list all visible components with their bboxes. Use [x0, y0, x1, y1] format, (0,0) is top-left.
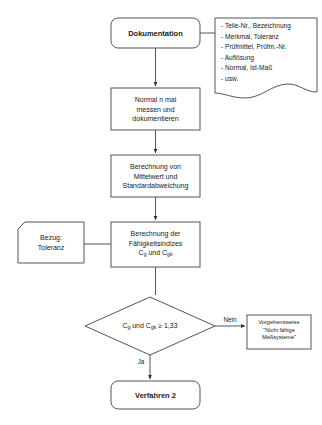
- dokument-annotation-items: - Teile-Nr., Bezeichnung - Merkmal, Tole…: [221, 21, 317, 85]
- node-berechnung-mittelwert[interactable]: [111, 155, 200, 197]
- node-bezug-toleranz[interactable]: [18, 222, 84, 263]
- node-entscheidung[interactable]: [85, 297, 215, 355]
- edge-label-ja: Ja: [132, 358, 150, 365]
- node-verfahren2[interactable]: [111, 381, 200, 409]
- node-messen[interactable]: [111, 88, 200, 130]
- edge-label-nein: Nein: [213, 316, 247, 323]
- node-berechnung-faehigkeit[interactable]: [111, 222, 200, 267]
- node-nicht-faehig-label: Vorgehensweise "Nicht fähige Meßsysteme": [247, 319, 311, 342]
- node-dokumentation[interactable]: [111, 18, 200, 48]
